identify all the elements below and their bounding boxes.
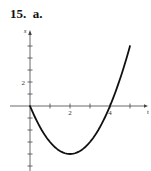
x-tick-label: 2: [68, 109, 72, 117]
y-axis-label: s: [24, 27, 27, 35]
x-axis-label: t: [147, 108, 149, 116]
y-tick-label: 2: [22, 79, 26, 87]
function-curve: [30, 46, 130, 154]
axes: [10, 30, 148, 171]
plot-area: ts242: [0, 0, 151, 171]
y-axis-arrow-icon: [28, 30, 32, 35]
